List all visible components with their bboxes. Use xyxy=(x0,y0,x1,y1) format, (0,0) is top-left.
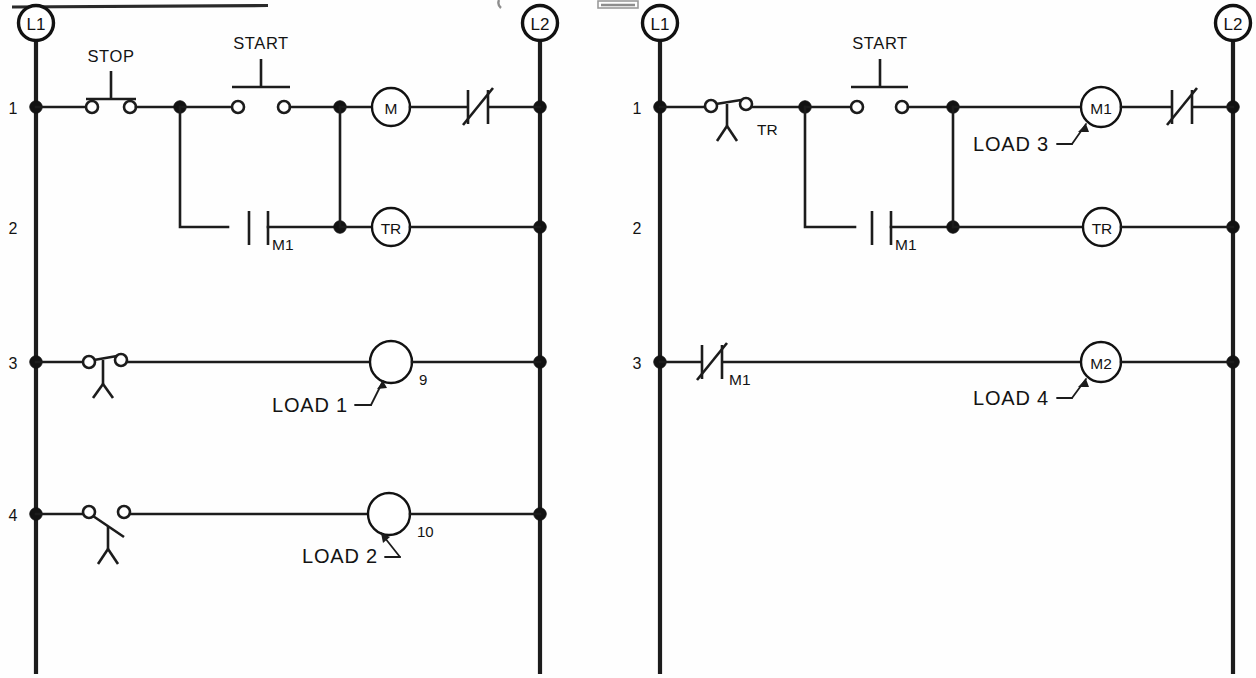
right-rung-2-number: 2 xyxy=(633,220,642,237)
l2-terminal-label: L2 xyxy=(531,15,550,34)
coil-m2-label: M2 xyxy=(1090,355,1112,372)
contact-tr-label: TR xyxy=(757,121,778,138)
overload-contact-nc-left[interactable] xyxy=(463,88,493,125)
l2-terminal-label-right: L2 xyxy=(1224,15,1243,34)
load-2-callout: LOAD 2 xyxy=(302,533,400,567)
left-seal-in-branch-wire xyxy=(180,107,228,227)
l1-terminal-label: L1 xyxy=(27,15,46,34)
coil-tr-right[interactable]: TR xyxy=(1083,208,1121,246)
left-rung-4-number: 4 xyxy=(9,507,18,524)
load-2[interactable] xyxy=(368,493,410,535)
load-4-callout-arrowhead xyxy=(1078,379,1089,387)
load-1[interactable] xyxy=(370,341,412,383)
limit-switch-nc[interactable] xyxy=(83,354,127,398)
load-1-number: 9 xyxy=(419,371,427,388)
right-seal-in-branch-wire xyxy=(805,107,855,227)
contact-m1-no-left[interactable]: M1 xyxy=(249,211,294,253)
coil-tr-left[interactable]: TR xyxy=(372,208,410,246)
start-pushbutton-label: START xyxy=(233,34,289,52)
stop-pushbutton-nc[interactable]: STOP xyxy=(86,47,136,113)
l1-terminal-label-right: L1 xyxy=(651,15,670,34)
load-2-number: 10 xyxy=(417,523,434,540)
load-3-callout: LOAD 3 xyxy=(973,124,1089,155)
left-rung-1-number: 1 xyxy=(9,100,18,117)
right-circuit-panel: L1 L2 1 TR START xyxy=(633,6,1251,673)
start-pushbutton-label-right: START xyxy=(852,34,908,52)
coil-m2-right[interactable]: M2 xyxy=(1081,342,1121,382)
contact-m1-label-right: M1 xyxy=(895,236,917,253)
load-4-callout: LOAD 4 xyxy=(973,379,1089,409)
contact-tr-nc-right[interactable]: TR xyxy=(705,98,778,141)
load-2-callout-label: LOAD 2 xyxy=(302,545,378,567)
contact-m1-nc-right[interactable]: M1 xyxy=(697,343,751,388)
load-3-callout-arrowhead xyxy=(1078,124,1089,132)
coil-m-label: M xyxy=(385,100,398,117)
diagram-canvas: L1 L2 1 STOP START xyxy=(0,0,1256,678)
coil-m[interactable]: M xyxy=(372,88,410,126)
right-rung-3-number: 3 xyxy=(633,355,642,372)
coil-m1-right[interactable]: M1 xyxy=(1081,87,1121,127)
ladder-logic-svg: L1 L2 1 STOP START xyxy=(0,0,1256,678)
start-pushbutton-no[interactable]: START xyxy=(232,34,290,113)
contact-m1-no-right[interactable]: M1 xyxy=(872,211,917,253)
coil-m1-label: M1 xyxy=(1090,100,1112,117)
coil-tr-label-right: TR xyxy=(1092,220,1113,237)
load-3-callout-label: LOAD 3 xyxy=(973,133,1049,155)
stop-pushbutton-label: STOP xyxy=(87,47,134,65)
left-rung-2-number: 2 xyxy=(9,220,18,237)
overload-contact-nc-right[interactable] xyxy=(1167,88,1197,125)
load-1-callout: LOAD 1 xyxy=(272,381,387,416)
limit-switch-no[interactable] xyxy=(83,506,130,564)
right-panel-l2-terminal: L2 xyxy=(1216,6,1251,41)
load-4-callout-label: LOAD 4 xyxy=(973,387,1049,409)
contact-m1-nc-label: M1 xyxy=(729,371,751,388)
left-panel-l1-terminal: L1 xyxy=(19,6,54,41)
left-rung-3-number: 3 xyxy=(9,355,18,372)
coil-tr-label: TR xyxy=(381,220,402,237)
load-1-callout-label: LOAD 1 xyxy=(272,394,348,416)
start-pushbutton-no-right[interactable]: START xyxy=(851,34,908,113)
left-circuit-panel: L1 L2 1 STOP START xyxy=(9,6,558,673)
right-rung-1-number: 1 xyxy=(633,100,642,117)
left-panel-l2-terminal: L2 xyxy=(523,6,558,41)
right-panel-l1-terminal: L1 xyxy=(643,6,678,41)
contact-m1-label: M1 xyxy=(272,236,294,253)
